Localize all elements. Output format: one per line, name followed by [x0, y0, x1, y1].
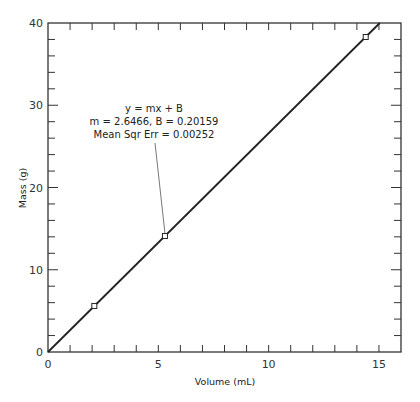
- axis-ticks: [48, 23, 401, 352]
- plot-frame: [48, 23, 401, 352]
- x-axis-label: Volume (mL): [195, 376, 255, 387]
- y-tick-labels: 010203040: [29, 17, 43, 359]
- y-axis-label: Mass (g): [17, 168, 28, 208]
- annotation-leader-line: [155, 143, 165, 233]
- data-point-marker: [162, 234, 167, 239]
- x-tick-labels: 051015: [45, 358, 386, 371]
- y-tick-label: 0: [36, 346, 43, 359]
- y-tick-label: 20: [29, 182, 43, 195]
- data-point-marker: [363, 34, 368, 39]
- fit-line: [48, 23, 380, 352]
- mass-volume-chart: 051015 010203040 y = mx + B m = 2.6466, …: [0, 0, 420, 402]
- x-tick-label: 5: [155, 358, 162, 371]
- y-tick-label: 10: [29, 264, 43, 277]
- annotation-equation: y = mx + B: [125, 103, 183, 114]
- annotation-params: m = 2.6466, B = 0.20159: [90, 116, 219, 127]
- annotation-mse: Mean Sqr Err = 0.00252: [94, 129, 215, 140]
- data-point-marker: [92, 303, 97, 308]
- x-tick-label: 10: [262, 358, 276, 371]
- x-tick-label: 0: [45, 358, 52, 371]
- y-tick-label: 40: [29, 17, 43, 30]
- y-tick-label: 30: [29, 99, 43, 112]
- x-tick-label: 15: [372, 358, 386, 371]
